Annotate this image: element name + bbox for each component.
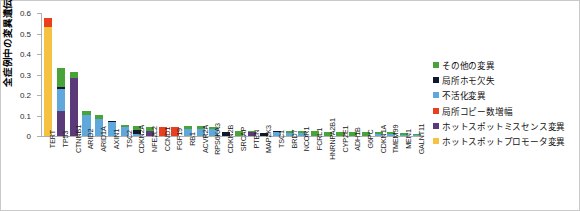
bar-slot[interactable] — [156, 13, 169, 136]
bar-slot[interactable] — [194, 13, 207, 136]
legend-item[interactable]: その他の変異 — [433, 59, 565, 71]
x-label-slot: ACVR2A — [194, 137, 207, 207]
x-label-slot: GALNT11 — [410, 137, 423, 207]
bar-slot[interactable] — [385, 13, 398, 136]
x-label-slot: AXIN1 — [106, 137, 119, 207]
bar-segment — [70, 72, 78, 79]
stacked-bar[interactable] — [57, 68, 65, 136]
y-tick: 0.4 — [37, 54, 41, 55]
bar-slot[interactable] — [245, 13, 258, 136]
bar-segment — [57, 68, 65, 87]
bar-slot[interactable] — [283, 13, 296, 136]
x-label-slot: G6PC — [360, 137, 373, 207]
bar-slot[interactable] — [169, 13, 182, 136]
legend-label: ホットスポットミスセンス変異 — [442, 120, 565, 132]
bar-segment — [44, 18, 52, 27]
bar-slot[interactable] — [296, 13, 309, 136]
x-label-slot: ARID2 — [80, 137, 93, 207]
x-label-slot: RB1 — [182, 137, 195, 207]
y-tick: 0.1 — [37, 116, 41, 117]
y-tick: 0 — [37, 136, 41, 137]
x-label-slot: CCND1 — [156, 137, 169, 207]
x-label-slot: TSC1 — [271, 137, 284, 207]
y-tick: 0.2 — [37, 95, 41, 96]
bar-slot[interactable] — [80, 13, 93, 136]
x-label-slot: ARID1A — [93, 137, 106, 207]
bar-slot[interactable] — [220, 13, 233, 136]
legend-label: 局所コピー数増幅 — [442, 105, 512, 117]
legend-label: 不活化変異 — [442, 89, 486, 101]
y-tick-label: 0.6 — [20, 9, 31, 18]
x-label-slot: TMEM99 — [385, 137, 398, 207]
legend-label: 局所ホモ欠失 — [442, 74, 495, 86]
bar-slot[interactable] — [207, 13, 220, 136]
x-label-slot: RPS6KA3 — [207, 137, 220, 207]
bar-slot[interactable] — [106, 13, 119, 136]
plot-area: 00.10.20.30.40.50.6 — [41, 13, 423, 136]
x-label-slot: FCRL1 — [309, 137, 322, 207]
legend-label: その他の変異 — [442, 59, 495, 71]
y-tick: 0.6 — [37, 13, 41, 14]
x-label-slot: CTNNB1 — [67, 137, 80, 207]
y-tick: 0.5 — [37, 34, 41, 35]
bar-slot[interactable] — [271, 13, 284, 136]
legend-item[interactable]: 局所ホモ欠失 — [433, 74, 565, 86]
y-tick-label: 0.4 — [20, 50, 31, 59]
chart-figure: 全症例中の変異遺伝子の頻度 00.10.20.30.40.50.6 TERTTP… — [0, 0, 580, 211]
legend-item[interactable]: 不活化変異 — [433, 89, 565, 101]
bar-slot[interactable] — [309, 13, 322, 136]
bar-slot[interactable] — [67, 13, 80, 136]
x-label-slot: PTEN — [245, 137, 258, 207]
x-label-slot: CDKN1A — [372, 137, 385, 207]
bar-slot[interactable] — [398, 13, 411, 136]
x-label-slot: NCOR1 — [296, 137, 309, 207]
x-label-slot: TERT — [42, 137, 55, 207]
legend-swatch-icon — [433, 62, 439, 68]
bar-slot[interactable] — [55, 13, 68, 136]
bar-slot[interactable] — [42, 13, 55, 136]
chart-legend: その他の変異局所ホモ欠失不活化変異局所コピー数増幅ホットスポットミスセンス変異ホ… — [433, 59, 565, 147]
x-label-slot: HNRNPA2B1 — [321, 137, 334, 207]
x-label-slot: ADH1B — [347, 137, 360, 207]
legend-item[interactable]: ホットスポットミスセンス変異 — [433, 120, 565, 132]
bar-slot[interactable] — [233, 13, 246, 136]
bar-slot[interactable] — [360, 13, 373, 136]
y-tick-label: 0 — [27, 132, 31, 141]
x-label-slot: TP53 — [55, 137, 68, 207]
bar-slot[interactable] — [144, 13, 157, 136]
y-axis-title: 全症例中の変異遺伝子の頻度 — [0, 0, 14, 87]
legend-item[interactable]: 局所コピー数増幅 — [433, 105, 565, 117]
y-tick-label: 0.5 — [20, 29, 31, 38]
x-label-slot: FGF19 — [169, 137, 182, 207]
bar-slot[interactable] — [118, 13, 131, 136]
legend-label: ホットスポットプロモータ変異 — [442, 135, 565, 147]
stacked-bar[interactable] — [44, 18, 52, 136]
x-label-slot: MAP2K3 — [258, 137, 271, 207]
x-axis-labels: TERTTP53CTNNB1ARID2ARID1AAXIN1TSC2CDKN2A… — [42, 137, 423, 207]
bar-slot[interactable] — [372, 13, 385, 136]
bar-slot[interactable] — [347, 13, 360, 136]
y-tick: 0.3 — [37, 75, 41, 76]
legend-swatch-icon — [433, 77, 439, 83]
bar-slot[interactable] — [182, 13, 195, 136]
x-label-slot: TSC2 — [118, 137, 131, 207]
legend-swatch-icon — [433, 108, 439, 114]
bar-slot[interactable] — [258, 13, 271, 136]
x-label-slot: BRD7 — [283, 137, 296, 207]
legend-item[interactable]: ホットスポットプロモータ変異 — [433, 135, 565, 147]
y-tick-label: 0.1 — [20, 111, 31, 120]
legend-swatch-icon — [433, 138, 439, 144]
x-label-slot: NFE2L2 — [144, 137, 157, 207]
bar-slot[interactable] — [410, 13, 423, 136]
x-label-slot: MEN1 — [398, 137, 411, 207]
x-label-slot: CYP2E1 — [334, 137, 347, 207]
y-tick-label: 0.2 — [20, 91, 31, 100]
bar-slot[interactable] — [93, 13, 106, 136]
bar-segment — [57, 89, 65, 111]
x-label-slot: CDKN2B — [220, 137, 233, 207]
x-tick-label: GALNT11 — [417, 124, 426, 155]
x-label-slot: SRCAP — [233, 137, 246, 207]
bar-slot[interactable] — [131, 13, 144, 136]
legend-swatch-icon — [433, 92, 439, 98]
legend-swatch-icon — [433, 123, 439, 129]
